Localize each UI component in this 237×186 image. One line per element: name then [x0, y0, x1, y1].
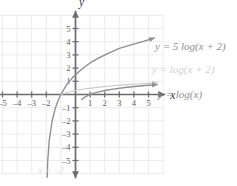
y-tick-label--5: –5: [61, 156, 71, 166]
y-axis-arrow-up: [72, 11, 79, 18]
asymptote-label-x-equals-negative-two: x = –2: [38, 166, 64, 176]
x-tick-label-2: 2: [103, 98, 107, 108]
y-tick-label--2: –2: [61, 116, 71, 126]
y-tick-label--3: –3: [61, 129, 71, 139]
y-axis-arrow-down: [72, 171, 79, 178]
y-tick-label-2: 2: [66, 63, 70, 73]
curve-label-five-log-x-plus-two: y = 5 log(x + 2): [155, 41, 226, 52]
y-tick-label-5: 5: [66, 24, 70, 34]
x-tick-label-4: 4: [132, 98, 137, 108]
y-tick-label--4: –4: [61, 142, 71, 152]
x-tick-label--4: –4: [12, 98, 22, 108]
y-tick-label--1: –1: [61, 103, 71, 113]
x-tick-label-1: 1: [88, 98, 92, 108]
y-tick-label-3: 3: [66, 50, 70, 60]
x-tick-label--3: –3: [26, 98, 36, 108]
x-tick-label-5: 5: [146, 98, 150, 108]
curve-label-log-x: y = log(x): [158, 89, 202, 100]
y-axis-name: y: [78, 0, 85, 9]
x-tick-label--2: –2: [41, 98, 51, 108]
x-tick-label--5: –5: [0, 98, 7, 108]
curve-label-log-x-plus-two: y = log(x + 2): [152, 64, 215, 75]
x-tick-label-3: 3: [117, 98, 121, 108]
curve-down-arrowhead: [44, 182, 49, 186]
log-transformation-graph-figure: –5–4–3–21234554321–1–2–3–4–5 xy y = 5 lo…: [0, 0, 237, 185]
axes: [0, 11, 165, 179]
